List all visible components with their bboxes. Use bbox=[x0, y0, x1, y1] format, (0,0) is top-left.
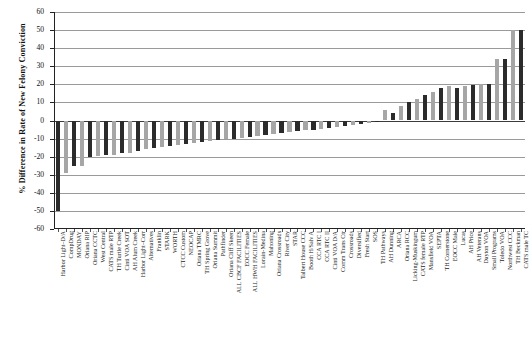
x-axis-tick-label: TH Pathways bbox=[380, 231, 387, 264]
x-axis-tick-label: STAR bbox=[292, 231, 299, 246]
x-axis-tick-label: SOS bbox=[372, 231, 379, 242]
x-axis-tick-label: EOCC Male bbox=[452, 231, 459, 261]
y-axis-tick-label: -10 bbox=[18, 135, 44, 143]
x-axis-tick-label: Fresh Start bbox=[364, 231, 371, 258]
chart-container: % Difference in Rate of New Felony Convi… bbox=[0, 0, 532, 343]
x-axis-tick-label: CATS female RTP bbox=[420, 231, 427, 276]
x-axis-tick-label: Harbor Light–D/A bbox=[60, 231, 67, 277]
x-axis-tick-label: Pathfinder bbox=[220, 231, 227, 256]
x-axis-tick-label: AH Veterans bbox=[476, 231, 483, 262]
y-axis-tick-label: 10 bbox=[18, 98, 44, 106]
x-axis-tick-label: NEOCAP bbox=[188, 231, 195, 255]
y-axis-tick-label: 30 bbox=[18, 62, 44, 70]
x-axis-tick-label: CompDrug bbox=[68, 231, 75, 258]
x-axis-tick-label: Comm Trans Ctr bbox=[340, 231, 347, 272]
x-axis-tick-label: Small Programs bbox=[491, 231, 498, 270]
x-axis-tick-label: ARCA bbox=[396, 231, 403, 248]
x-axis-tick-label: Lorain-Medina bbox=[260, 231, 267, 268]
x-axis-tick-label: EOCC Female bbox=[244, 231, 251, 267]
x-axis-tick-label: Talbert House CCC bbox=[300, 231, 307, 279]
x-axis-tick-label: WORTH bbox=[172, 231, 179, 253]
x-axis-tick-label: ALL CBCF FACILITIES bbox=[236, 231, 243, 293]
x-axis-tick-label: CCA RTC I bbox=[316, 231, 323, 260]
x-axis-tick-label: Toledo VOA bbox=[499, 231, 506, 262]
y-axis-tick-label: -50 bbox=[18, 207, 44, 215]
x-axis-tick-label: CATS male RTP bbox=[108, 231, 115, 272]
y-axis-tick-label: 50 bbox=[18, 26, 44, 34]
plot-area bbox=[54, 12, 525, 229]
y-axis-tick bbox=[50, 229, 54, 230]
x-axis-tick-label: Cinti VOA SOT bbox=[124, 231, 131, 271]
x-axis-tick-label: Oriana CCTC bbox=[92, 231, 99, 265]
x-axis-tick-label: Dayton VOA bbox=[483, 231, 490, 264]
x-axis-tick-label: Mansfield VOA bbox=[428, 231, 435, 270]
x-axis-tick-label: AH Alum Creek bbox=[132, 231, 139, 271]
y-axis-tick-label: -20 bbox=[18, 153, 44, 161]
x-axis-tick-label: AH Dunning bbox=[388, 231, 395, 263]
axis-frame bbox=[54, 12, 525, 229]
x-axis-tick-label: West Central bbox=[100, 231, 107, 263]
x-axis-tick-label: Oriana Crossroads bbox=[276, 231, 283, 276]
y-axis-tick-label: -60 bbox=[18, 225, 44, 233]
x-axis-tick-label: CCA RTC II bbox=[324, 231, 331, 262]
x-axis-tick-label: ALL HWH FACILITIES bbox=[252, 231, 259, 292]
x-axis-tick-label: Oriana RIP bbox=[84, 231, 91, 259]
x-axis-tick-label: River City bbox=[284, 231, 291, 257]
x-axis-tick-label: Franklin bbox=[156, 231, 163, 252]
x-axis-tick-label: Alternatives bbox=[148, 231, 155, 261]
x-axis-tick-label: Oriana TMRC bbox=[196, 231, 203, 266]
x-axis-tick-label: TH Spring Grove bbox=[204, 231, 211, 274]
y-axis-tick-label: -40 bbox=[18, 189, 44, 197]
x-axis-tick-label: Harbor Light–Corr bbox=[140, 231, 147, 277]
x-axis-tick-label: Lucas bbox=[460, 231, 467, 246]
x-axis-tick-label: CTCC Custom bbox=[180, 231, 187, 267]
y-axis-tick-label: 60 bbox=[18, 8, 44, 16]
x-axis-tick-label: STARK bbox=[164, 231, 171, 251]
x-axis-tick-label: Oriana Cliff Skeen bbox=[228, 231, 235, 277]
x-axis-tick-label: TH Cornerstone bbox=[444, 231, 451, 270]
x-axis-tick-label: Cinti VOA D/A bbox=[332, 231, 339, 270]
y-axis-tick-label: -30 bbox=[18, 171, 44, 179]
x-axis-tick-label: Northwest CCC bbox=[507, 231, 514, 270]
x-axis-tick-label: CATS male TC bbox=[523, 231, 530, 268]
x-axis-tick-label: Crossroads bbox=[348, 231, 355, 258]
x-axis-tick-label: TH Beckman bbox=[515, 231, 522, 264]
y-axis-tick-label: 0 bbox=[18, 117, 44, 125]
y-axis-tick-label: 20 bbox=[18, 80, 44, 88]
x-axis-tick-label: TH Turtle Creek bbox=[116, 231, 123, 271]
x-axis-tick-labels: Harbor Light–D/ACompDrugMONDAYOriana RIP… bbox=[54, 231, 525, 343]
x-axis-tick-label: Licking-Muskingum bbox=[412, 231, 419, 281]
x-axis-tick-label: AH Price bbox=[468, 231, 475, 254]
x-axis-tick-label: Oriana Summit bbox=[212, 231, 219, 268]
x-axis-tick-label: SEPTA bbox=[436, 231, 443, 249]
x-axis-tick-label: MONDAY bbox=[76, 231, 83, 258]
x-axis-tick-label: Oriana RCC bbox=[404, 231, 411, 261]
x-axis-tick-label: Booth H/Salv A bbox=[308, 231, 315, 270]
x-axis-tick-label: Diversified bbox=[356, 231, 363, 258]
y-axis-tick-label: 40 bbox=[18, 44, 44, 52]
x-axis-tick-label: Mahoning bbox=[268, 231, 275, 256]
